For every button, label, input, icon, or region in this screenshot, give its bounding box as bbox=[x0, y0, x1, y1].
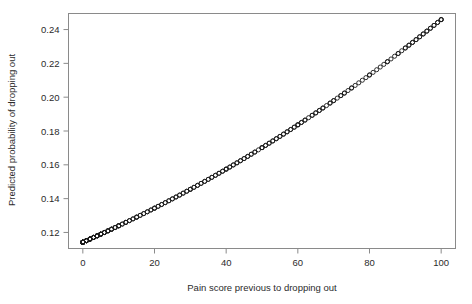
y-tick-label: 0.24 bbox=[41, 24, 60, 35]
y-tick-label: 0.16 bbox=[41, 159, 60, 170]
plot-background bbox=[0, 0, 472, 304]
y-tick-label: 0.20 bbox=[41, 92, 60, 103]
scatter-plot-figure: 0.120.140.160.180.200.220.24 02040608010… bbox=[0, 0, 472, 304]
x-tick-label: 100 bbox=[433, 257, 449, 268]
x-tick-label: 20 bbox=[149, 257, 160, 268]
plot-canvas: 0.120.140.160.180.200.220.24 02040608010… bbox=[0, 0, 472, 304]
y-tick-label: 0.22 bbox=[41, 58, 60, 69]
x-axis-label: Pain score previous to dropping out bbox=[187, 282, 337, 293]
x-tick-label: 80 bbox=[364, 257, 375, 268]
y-tick-label: 0.12 bbox=[41, 227, 60, 238]
x-tick-label: 60 bbox=[293, 257, 304, 268]
x-tick-label: 0 bbox=[80, 257, 85, 268]
y-axis-label: Predicted probability of dropping out bbox=[6, 54, 17, 206]
x-tick-label: 40 bbox=[221, 257, 232, 268]
y-tick-label: 0.14 bbox=[41, 193, 60, 204]
y-tick-label: 0.18 bbox=[41, 126, 60, 137]
